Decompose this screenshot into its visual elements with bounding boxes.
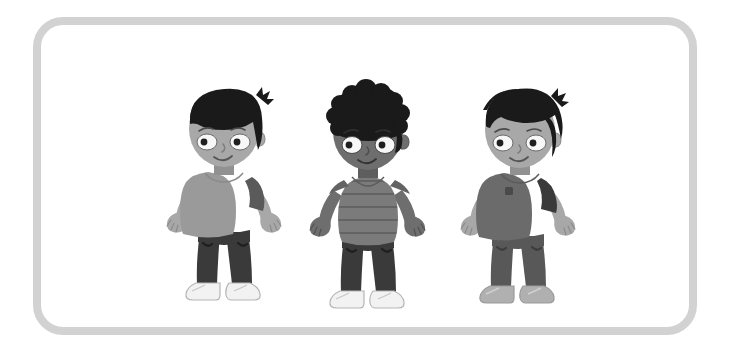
illustration-stage bbox=[0, 0, 730, 353]
figure-child-1-hitarea[interactable] bbox=[170, 82, 300, 307]
figure-child-3-hitarea[interactable] bbox=[458, 82, 590, 310]
figure-child-2-hitarea[interactable] bbox=[312, 72, 444, 309]
